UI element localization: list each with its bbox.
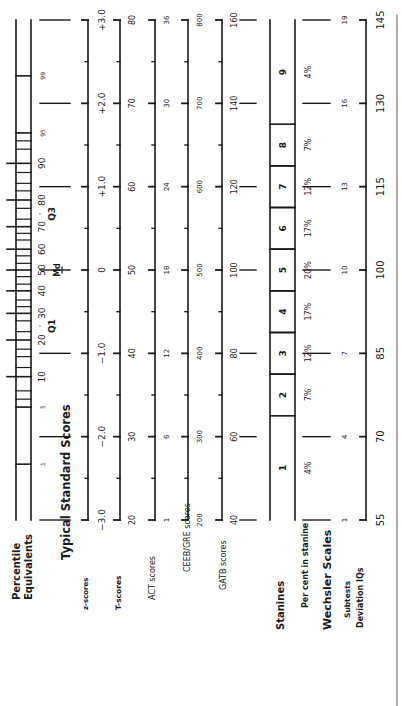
ceeb-score-value: 700 bbox=[196, 97, 204, 110]
deviation-iq-value: 145 bbox=[375, 10, 386, 29]
percent-in-stanine-label: Per cent in stanine bbox=[301, 522, 310, 608]
stanine-percent-value: 12% bbox=[304, 344, 313, 362]
gatb-score-value: 100 bbox=[230, 262, 239, 277]
act-score-value: 18 bbox=[163, 266, 171, 275]
act-score-value: 24 bbox=[163, 182, 171, 191]
t-score-value: 70 bbox=[128, 98, 137, 108]
t-score-value: 20 bbox=[128, 515, 137, 525]
act-score-value: 36 bbox=[163, 15, 171, 24]
subtest-value: 7 bbox=[341, 351, 349, 355]
stanine-percent-value: 4% bbox=[304, 461, 313, 474]
normal-curve-equivalents-chart: PercentileEquivalentsTypical Standard Sc… bbox=[0, 0, 402, 706]
stanine-percent-value: 7% bbox=[304, 138, 313, 151]
z-scores-label: z-scores bbox=[82, 578, 90, 610]
subtest-value: 1 bbox=[341, 518, 349, 522]
ceeb-score-value: 600 bbox=[196, 180, 204, 193]
deviation-iq-value: 55 bbox=[375, 514, 386, 527]
stanines-label: Stanines bbox=[275, 581, 286, 630]
gatb-scores-label: GATB scores bbox=[219, 540, 228, 590]
subtest-value: 10 bbox=[341, 266, 349, 275]
act-score-value: 12 bbox=[163, 349, 171, 358]
stanine-value: 2 bbox=[278, 392, 288, 398]
percentile-heading-label: Percentile bbox=[11, 542, 22, 600]
t-score-value: 40 bbox=[128, 348, 137, 358]
ceeb-scores-label: CEEB/GRE scores bbox=[183, 503, 192, 572]
ceeb-score-value: 500 bbox=[196, 263, 204, 276]
act-score-value: 30 bbox=[163, 99, 171, 108]
standard-scores-heading-label: Typical Standard Scores bbox=[59, 404, 73, 560]
stanine-percent-value: 12% bbox=[304, 177, 313, 195]
z-score-value: +2.0 bbox=[97, 92, 107, 114]
quartile-value: Q3 bbox=[47, 207, 57, 221]
gatb-score-value: 40 bbox=[230, 515, 239, 525]
subtest-value: 4 bbox=[341, 434, 349, 439]
percentile-heading-label: Equivalents bbox=[23, 534, 34, 600]
subtests-label: Subtests bbox=[343, 580, 352, 618]
ceeb-score-value: 400 bbox=[196, 347, 204, 360]
z-score-value: 0 bbox=[97, 267, 107, 273]
percentile-value: 95 bbox=[39, 129, 46, 137]
percentile-value: 1 bbox=[39, 462, 46, 466]
t-score-value: 50 bbox=[128, 265, 137, 275]
z-score-value: +1.0 bbox=[97, 175, 107, 197]
stanine-percent-value: 17% bbox=[304, 302, 313, 320]
percentile-value: 10 bbox=[37, 371, 47, 383]
stanine-value: 8 bbox=[278, 142, 288, 148]
chart-values: 151020304050607080909599Q1MdQ3−3.0−2.0−1… bbox=[37, 9, 386, 531]
t-score-value: 60 bbox=[128, 182, 137, 192]
percentile-value: 30 bbox=[37, 307, 47, 319]
ceeb-score-value: 800 bbox=[196, 13, 204, 26]
subtest-value: 16 bbox=[341, 98, 349, 107]
stanine-percent-value: 4% bbox=[304, 65, 313, 78]
gatb-score-value: 80 bbox=[230, 348, 239, 358]
gatb-score-value: 120 bbox=[230, 179, 239, 194]
stanine-value: 6 bbox=[278, 225, 288, 231]
percentile-value: 70 bbox=[37, 221, 47, 233]
subtest-value: 19 bbox=[341, 16, 349, 25]
percentile-value: 40 bbox=[37, 285, 47, 297]
stanine-value: 9 bbox=[278, 69, 288, 75]
gatb-score-value: 160 bbox=[230, 12, 239, 27]
percentile-value: 90 bbox=[37, 157, 47, 169]
stanine-value: 4 bbox=[278, 309, 288, 315]
deviation-iqs-label: Deviation IQs bbox=[356, 567, 365, 628]
stanine-value: 3 bbox=[278, 350, 288, 356]
stanine-value: 1 bbox=[278, 465, 288, 471]
percentile-value: 20 bbox=[37, 334, 47, 346]
stanine-value: 5 bbox=[278, 267, 288, 273]
stanine-percent-value: 7% bbox=[304, 388, 313, 401]
percentile-value: 80 bbox=[37, 194, 47, 206]
gatb-score-value: 60 bbox=[230, 432, 239, 442]
stanine-percent-value: 17% bbox=[304, 219, 313, 237]
subtest-value: 13 bbox=[341, 182, 349, 191]
z-score-value: −3.0 bbox=[97, 509, 107, 531]
stanine-percent-value: 20% bbox=[304, 261, 313, 279]
gatb-score-value: 140 bbox=[230, 96, 239, 111]
wechsler-scales-heading-label: Wechsler Scales bbox=[321, 529, 334, 630]
t-score-value: 80 bbox=[128, 15, 137, 25]
percentile-value: 50 bbox=[37, 264, 47, 276]
deviation-iq-value: 130 bbox=[375, 94, 386, 113]
quartile-value: Md bbox=[53, 263, 62, 277]
t-scores-label: T-scores bbox=[114, 575, 123, 610]
deviation-iq-value: 115 bbox=[375, 177, 386, 196]
percentile-value: 5 bbox=[39, 405, 46, 409]
t-score-value: 30 bbox=[128, 432, 137, 442]
z-score-value: −2.0 bbox=[97, 425, 107, 447]
act-score-value: 1 bbox=[163, 518, 171, 522]
stanine-value: 7 bbox=[278, 184, 288, 190]
deviation-iq-value: 100 bbox=[375, 260, 386, 279]
deviation-iq-value: 70 bbox=[375, 430, 386, 443]
act-score-value: 6 bbox=[163, 434, 171, 439]
deviation-iq-value: 85 bbox=[375, 347, 386, 360]
ceeb-score-value: 300 bbox=[196, 430, 204, 443]
quartile-value: Q1 bbox=[47, 319, 57, 333]
ceeb-score-value: 200 bbox=[196, 513, 204, 526]
percentile-value: 60 bbox=[37, 243, 47, 255]
act-scores-label: ACT scores bbox=[148, 556, 157, 600]
z-score-value: +3.0 bbox=[97, 9, 107, 31]
percentile-value: 99 bbox=[39, 72, 46, 80]
z-score-value: −1.0 bbox=[97, 342, 107, 364]
